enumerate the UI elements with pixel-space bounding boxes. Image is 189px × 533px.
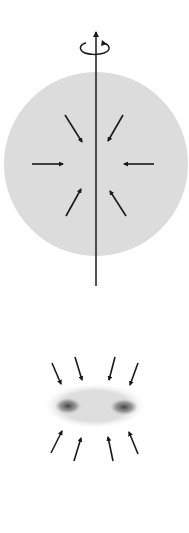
inflow-arrow-icon: [129, 432, 138, 454]
inflow-arrow-icon: [130, 363, 138, 385]
inflow-arrow-icon: [108, 437, 113, 461]
inflow-arrow-icon: [51, 431, 62, 453]
inflow-arrow-icon: [74, 438, 81, 461]
inflow-arrow-icon: [109, 357, 115, 380]
inflow-arrows-disk-bottom: [51, 431, 138, 461]
inflow-arrows-disk-top: [52, 357, 138, 385]
condensation-blob-left: [55, 398, 81, 414]
inflow-arrow-icon: [52, 363, 61, 384]
flattened-disk-stage: [45, 357, 145, 461]
condensation-blob-right: [110, 399, 138, 415]
spherical-cloud-stage: [4, 32, 188, 286]
rotation-arrow-icon: [80, 40, 109, 54]
collapse-diagram: [0, 0, 189, 533]
inflow-arrow-icon: [75, 357, 82, 380]
